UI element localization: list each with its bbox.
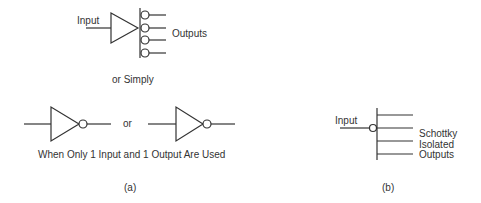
figure-a-label: (a) <box>124 182 136 193</box>
inversion-bubble <box>203 120 211 128</box>
schottky-input-label: Input <box>335 115 357 126</box>
inverter-triangle <box>51 107 79 141</box>
inverter-triangle <box>176 107 203 141</box>
inversion-bubble <box>370 125 377 132</box>
top-input-label: Input <box>77 15 99 26</box>
diagram-canvas: Input Outputs or Simply or When Only 1 I… <box>0 0 481 203</box>
schottky-label-line-3: Outputs <box>419 149 454 160</box>
schottky-label-line-1: Schottky <box>419 128 457 139</box>
inversion-bubble-2 <box>141 24 149 32</box>
simple-inverter-symbol-1 <box>24 107 111 141</box>
inversion-bubble <box>79 120 87 128</box>
or-simply-label: or Simply <box>112 74 154 85</box>
inversion-bubble-3 <box>141 36 149 44</box>
figure-b-label: (b) <box>382 182 394 193</box>
or-label: or <box>123 118 133 129</box>
inversion-bubble-4 <box>141 49 149 57</box>
top-outputs-label: Outputs <box>172 28 207 39</box>
buffer-triangle <box>111 13 138 43</box>
single-io-caption: When Only 1 Input and 1 Output Are Used <box>38 149 225 160</box>
simple-inverter-symbol-2 <box>148 107 235 141</box>
inversion-bubble-1 <box>141 11 149 19</box>
